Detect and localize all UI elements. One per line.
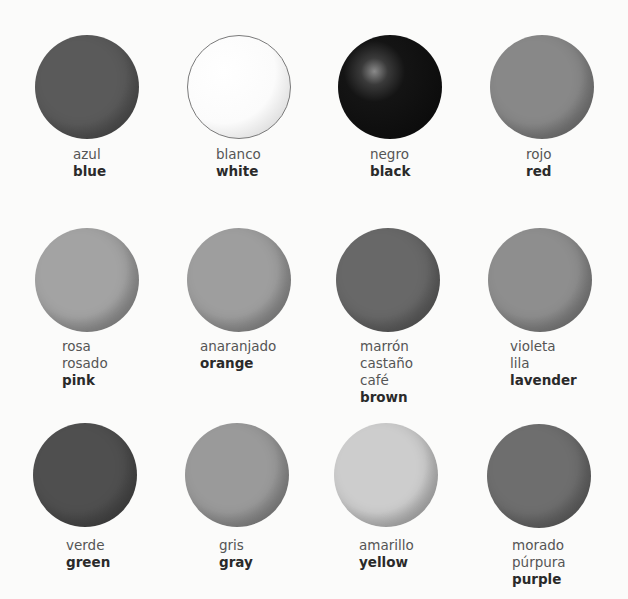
spanish-word: anaranjado [200,338,276,355]
color-swatch-white [187,35,291,139]
color-label-brown: marróncastañocafébrown [360,338,413,406]
color-swatch-black [338,35,442,139]
english-word: gray [219,554,253,571]
spanish-word: violeta [510,338,577,355]
color-label-purple: moradopúrpurapurple [512,537,566,588]
spanish-word: negro [370,146,410,163]
color-swatch-blue [35,35,139,139]
spanish-word: morado [512,537,566,554]
spanish-word: azul [73,146,106,163]
spanish-word: rosa [62,338,108,355]
spanish-word: amarillo [359,537,414,554]
color-swatch-yellow [334,423,438,527]
english-word: lavender [510,372,577,389]
color-label-orange: anaranjadoorange [200,338,276,372]
english-word: black [370,163,410,180]
color-swatch-purple [487,424,591,528]
english-word: brown [360,389,413,406]
english-word: green [66,554,110,571]
color-swatch-gray [185,423,289,527]
color-label-pink: rosarosadopink [62,338,108,389]
color-label-green: verdegreen [66,537,110,571]
color-label-red: rojored [526,146,552,180]
color-swatch-lavender [488,228,592,332]
color-label-lavender: violetalilalavender [510,338,577,389]
spanish-word: púrpura [512,554,566,571]
color-swatch-pink [35,228,139,332]
color-swatch-red [490,35,594,139]
english-word: red [526,163,552,180]
color-label-blue: azulblue [73,146,106,180]
english-word: orange [200,355,276,372]
spanish-word: café [360,372,413,389]
spanish-word: rojo [526,146,552,163]
color-swatch-orange [187,228,291,332]
spanish-word: gris [219,537,253,554]
color-swatch-green [33,423,137,527]
english-word: white [216,163,261,180]
english-word: purple [512,571,566,588]
spanish-word: verde [66,537,110,554]
english-word: blue [73,163,106,180]
spanish-word: lila [510,355,577,372]
color-label-gray: grisgray [219,537,253,571]
color-label-white: blancowhite [216,146,261,180]
color-swatch-brown [336,228,440,332]
english-word: pink [62,372,108,389]
english-word: yellow [359,554,414,571]
spanish-word: marrón [360,338,413,355]
spanish-word: castaño [360,355,413,372]
spanish-word: rosado [62,355,108,372]
color-label-black: negroblack [370,146,410,180]
spanish-word: blanco [216,146,261,163]
color-label-yellow: amarilloyellow [359,537,414,571]
